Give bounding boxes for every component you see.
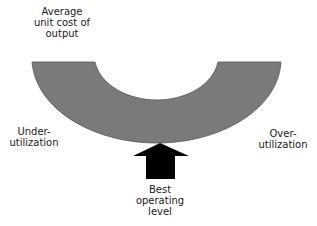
over-utilization-label: Over- utilization [250,128,316,150]
best-line: Best [125,184,195,195]
average-cost-curve-band [32,62,281,143]
average-unit-cost-label: Average unit cost of output [20,6,104,39]
title-line: unit cost of [20,17,104,28]
best-operating-level-arrow [133,143,189,179]
under-utilization-label: Under- utilization [0,126,68,148]
best-operating-level-label: Best operating level [125,184,195,217]
over-line: utilization [250,139,316,150]
best-line: operating [125,195,195,206]
under-line: utilization [0,137,68,148]
title-line: Average [20,6,104,17]
under-line: Under- [0,126,68,137]
best-line: level [125,206,195,217]
title-line: output [20,28,104,39]
over-line: Over- [250,128,316,139]
